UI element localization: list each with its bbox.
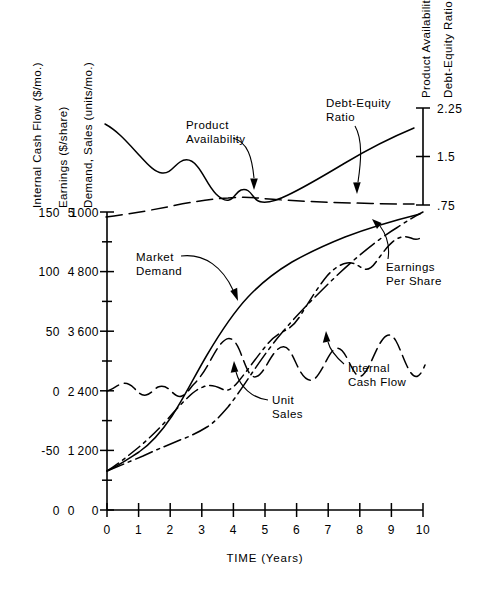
anno-market-demand-line1: Market xyxy=(136,251,174,263)
xlabel-8: 8 xyxy=(356,523,363,537)
ylabel-cashflow-150: 150 xyxy=(38,206,60,220)
leader-earnings-per-share xyxy=(380,226,389,259)
x-tick-labels: 0 1 2 3 4 5 6 7 8 9 10 xyxy=(103,523,430,537)
anno-market-demand-line2: Demand xyxy=(136,265,182,277)
anno-debt-equity-line1: Debt-Equity xyxy=(326,97,391,109)
lower-annotations: Market Demand Earnings Per Share Interna… xyxy=(136,219,442,420)
ylabel-demand-600: 600 xyxy=(77,325,99,339)
axis-title-product-availability: Product Availability xyxy=(420,0,432,98)
ylabel-cashflow-0: 0 xyxy=(53,385,60,399)
ylabel-earnings-2: 2 xyxy=(68,385,75,399)
anno-internal-cash-line1: Internal xyxy=(348,362,390,374)
ylabel-demand-1000: 1000 xyxy=(70,206,99,220)
anno-unit-sales-line1: Unit xyxy=(272,394,295,406)
anno-product-availability-line1: Product xyxy=(186,119,229,131)
arrowhead-unit-sales xyxy=(231,361,239,373)
figure-canvas: Internal Cash Flow ($/mo.) Earnings ($/s… xyxy=(0,0,491,591)
upper-ticklabel-075: .75 xyxy=(437,199,455,213)
axis-title-demand-sales: Demand, Sales (units/mo.) xyxy=(82,62,94,208)
leader-unit-sales xyxy=(236,372,268,400)
axis-title-earnings: Earnings ($/share) xyxy=(57,106,69,208)
ylabel-cashflow-neg50: -50 xyxy=(41,444,60,458)
xlabel-4: 4 xyxy=(230,523,237,537)
axis-title-debt-equity-ratio: Debt-Equity Ratio xyxy=(442,1,454,98)
xlabel-10: 10 xyxy=(416,523,430,537)
arrowhead-market-demand xyxy=(230,288,238,301)
upper-annotations: Product Availability Debt-Equity Ratio xyxy=(186,97,391,194)
leader-market-demand xyxy=(181,256,233,290)
ylabel-earnings-4: 4 xyxy=(68,265,75,279)
arrowhead-internal-cash-flow xyxy=(323,331,331,343)
ylabel-demand-0: 0 xyxy=(92,504,99,518)
arrowhead-debt-equity xyxy=(353,182,361,194)
upper-ticklabel-225: 2.25 xyxy=(437,102,462,116)
xlabel-2: 2 xyxy=(167,523,174,537)
ylabel-cashflow-bottom: 0 xyxy=(53,504,60,518)
series-debt-equity-ratio xyxy=(106,197,414,217)
y-tick-labels: 150 100 50 0 -50 0 5 4 3 2 1 0 1000 800 … xyxy=(38,206,99,518)
xlabel-7: 7 xyxy=(325,523,332,537)
right-axis-titles: Product Availability Debt-Equity Ratio xyxy=(420,0,454,98)
xlabel-0: 0 xyxy=(103,523,110,537)
chart-svg: Internal Cash Flow ($/mo.) Earnings ($/s… xyxy=(0,0,491,591)
ylabel-demand-200: 200 xyxy=(77,444,99,458)
series-product-availability xyxy=(105,124,414,202)
ylabel-cashflow-100: 100 xyxy=(38,265,60,279)
anno-internal-cash-line2: Cash Flow xyxy=(348,376,407,388)
ylabel-earnings-1: 1 xyxy=(68,444,75,458)
ylabel-demand-400: 400 xyxy=(77,385,99,399)
left-axis-titles: Internal Cash Flow ($/mo.) Earnings ($/s… xyxy=(31,62,94,208)
axis-title-internal-cash-flow: Internal Cash Flow ($/mo.) xyxy=(31,62,43,208)
ylabel-earnings-0: 0 xyxy=(68,504,75,518)
anno-earnings-line2: Per Share xyxy=(386,275,442,287)
xlabel-6: 6 xyxy=(293,523,300,537)
upper-ticklabel-150: 1.5 xyxy=(437,150,455,164)
xlabel-5: 5 xyxy=(261,523,268,537)
x-axis-title: TIME (Years) xyxy=(227,552,304,564)
xlabel-3: 3 xyxy=(198,523,205,537)
ylabel-cashflow-50: 50 xyxy=(46,325,60,339)
ylabel-demand-800: 800 xyxy=(77,265,99,279)
anno-debt-equity-line2: Ratio xyxy=(326,111,355,123)
arrowhead-product-availability xyxy=(250,179,258,191)
anno-unit-sales-line2: Sales xyxy=(272,408,303,420)
anno-earnings-line1: Earnings xyxy=(386,261,435,273)
xlabel-1: 1 xyxy=(135,523,142,537)
xlabel-9: 9 xyxy=(388,523,395,537)
ylabel-earnings-3: 3 xyxy=(68,325,75,339)
upper-panel: 2.25 1.5 .75 xyxy=(105,102,462,217)
